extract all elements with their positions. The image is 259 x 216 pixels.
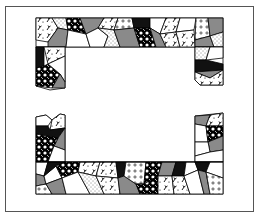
quilt-border-artwork [0,0,259,216]
bottom-right-leg [195,113,223,162]
top-right-leg [195,47,223,85]
bottom-left-leg [36,114,65,162]
bottom-band [36,162,223,194]
top-band [36,18,223,47]
top-left-leg [36,47,65,90]
